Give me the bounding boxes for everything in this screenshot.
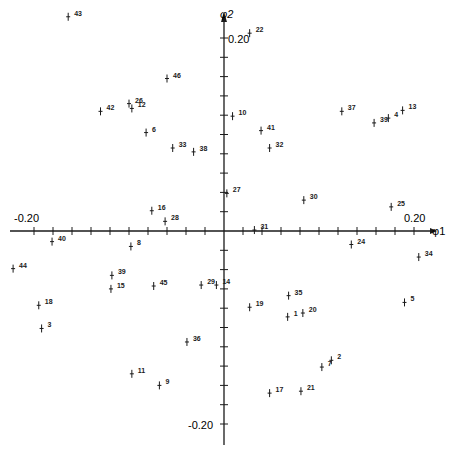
point-label: 32: [276, 141, 284, 148]
point-label: 35: [295, 289, 303, 296]
point-label: 27: [233, 186, 241, 193]
data-point: 16: [150, 204, 166, 215]
point-label: 36: [193, 335, 201, 342]
point-label: 41: [267, 124, 275, 131]
point-label: 11: [138, 367, 146, 374]
point-label: 37: [348, 104, 356, 111]
x-axis-label: φ1: [432, 225, 445, 237]
data-point: 29: [199, 278, 215, 289]
point-label: 14: [222, 278, 230, 285]
point-label: 33: [179, 141, 187, 148]
data-point: 15: [109, 282, 125, 293]
x-tick-label-neg: -0.20: [14, 212, 39, 224]
point-label: 6: [152, 126, 156, 133]
data-point: 36: [185, 335, 201, 346]
point-label: 19: [256, 300, 264, 307]
data-point: 19: [248, 300, 264, 311]
data-point: 38: [192, 145, 208, 156]
point-label: 2: [337, 353, 341, 360]
point-label: 20: [309, 306, 317, 313]
point-label: 12: [138, 101, 146, 108]
data-point: 18: [37, 298, 53, 309]
data-point: 42: [99, 104, 115, 115]
point-label: 25: [397, 200, 405, 207]
data-point: 33: [171, 141, 187, 152]
point-label: 39: [118, 268, 126, 275]
data-point: 46: [165, 72, 181, 83]
point-label: 9: [165, 378, 169, 385]
data-point: 20: [301, 306, 317, 317]
data-point: 3: [40, 321, 52, 332]
data-point: 39: [110, 268, 126, 279]
data-point: 31: [252, 223, 268, 234]
data-point: 17: [268, 386, 284, 397]
point-label: 8: [137, 239, 141, 246]
point-label: 42: [107, 104, 115, 111]
point-label: 45: [160, 279, 168, 286]
data-point: 14: [214, 278, 230, 289]
point-label: 22: [256, 26, 264, 33]
point-label: 30: [310, 193, 318, 200]
point-label: 4: [394, 111, 398, 118]
data-point: 35: [287, 289, 303, 300]
point-label: 16: [158, 204, 166, 211]
data-point: 22: [248, 26, 264, 37]
point-label: 13: [409, 103, 417, 110]
data-point: 21: [299, 384, 315, 395]
data-point: 25: [389, 200, 405, 211]
data-point: 8: [129, 239, 141, 250]
point-label: 38: [200, 145, 208, 152]
point-label: 31: [260, 223, 268, 230]
point-label: 1: [294, 310, 298, 317]
point-label: 10: [239, 109, 247, 116]
data-point: 9: [157, 378, 169, 389]
data-point: 40: [50, 235, 66, 246]
data-point: 13: [401, 103, 417, 114]
x-tick-label-pos: 0.20: [404, 212, 425, 224]
data-point: 45: [152, 279, 168, 290]
point-label: 5: [411, 295, 415, 302]
data-point: 24: [349, 238, 365, 249]
y-tick-label-neg: -0.20: [188, 419, 213, 431]
point-label: 40: [58, 235, 66, 242]
point-label: 3: [48, 321, 52, 328]
data-point: 34: [417, 250, 433, 261]
data-point: 7: [320, 360, 332, 371]
data-point: 11: [130, 367, 146, 378]
point-label: 24: [357, 238, 365, 245]
data-point: 10: [231, 109, 247, 120]
data-point: 12: [130, 101, 146, 112]
point-label: 44: [19, 262, 27, 269]
data-point: 4: [386, 111, 398, 122]
data-point: 30: [302, 193, 318, 204]
point-label: 17: [276, 386, 284, 393]
data-point: 6: [144, 126, 156, 137]
data-point: 41: [259, 124, 275, 135]
data-point: 39: [372, 116, 388, 127]
point-label: 43: [74, 10, 82, 17]
data-point: 1: [286, 310, 298, 321]
point-label: 28: [171, 214, 179, 221]
point-label: 39: [380, 116, 388, 123]
data-point: 43: [66, 10, 82, 21]
data-point: 44: [11, 262, 27, 273]
y-tick-label-pos: 0.20: [228, 33, 249, 45]
data-points: 4322462612426333810413237394132730251628…: [11, 10, 433, 397]
scatter-plot: 4322462612426333810413237394132730251628…: [0, 0, 452, 453]
point-label: 21: [307, 384, 315, 391]
y-axis-label: φ2: [220, 8, 233, 20]
point-label: 29: [207, 278, 215, 285]
data-point: 5: [403, 295, 415, 306]
data-point: 28: [163, 214, 179, 225]
data-point: 37: [340, 104, 356, 115]
data-point: 27: [225, 186, 241, 197]
point-label: 18: [45, 298, 53, 305]
point-label: 34: [425, 250, 433, 257]
data-point: 32: [268, 141, 284, 152]
point-label: 15: [117, 282, 125, 289]
point-label: 7: [328, 360, 332, 367]
point-label: 46: [173, 72, 181, 79]
